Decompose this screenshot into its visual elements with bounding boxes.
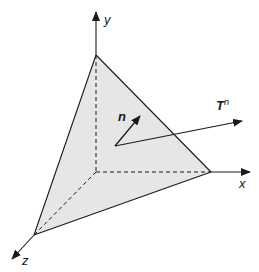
tetrahedron-diagram: y x z n Tn <box>0 0 259 272</box>
y-axis-label: y <box>103 12 112 27</box>
normal-vector-label: n <box>118 109 126 124</box>
z-axis-label: z <box>21 253 29 268</box>
x-axis-label: x <box>238 176 246 191</box>
traction-vector-superscript: n <box>224 97 229 107</box>
traction-vector-label: Tn <box>216 97 229 113</box>
